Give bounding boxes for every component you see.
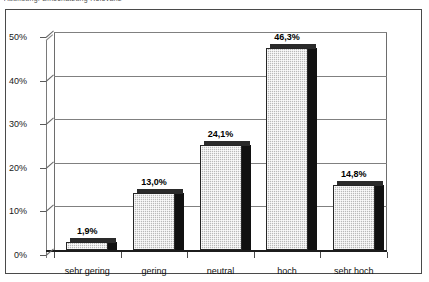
bar-side-face <box>375 185 384 250</box>
x-axis-tick <box>54 252 55 258</box>
bar-side-face <box>308 48 317 250</box>
gridline <box>54 32 387 33</box>
bar-value-label: 1,9% <box>54 227 120 236</box>
y-axis-tick-label: 50% <box>0 33 27 42</box>
bar-1[interactable] <box>133 188 175 250</box>
bar-value-label: 14,8% <box>321 170 387 179</box>
bar-front-face <box>133 193 175 250</box>
bar-front-face <box>200 145 242 250</box>
y-axis-tick-label: 20% <box>0 164 27 173</box>
bar-side-face <box>108 242 117 250</box>
y-axis-tick-label: 10% <box>0 207 27 216</box>
y-axis-tick-label: 40% <box>0 77 27 86</box>
bar-0[interactable] <box>66 237 108 250</box>
figure-caption-text: Abbildung: Einschätzung Relevanz <box>4 0 122 2</box>
bar-value-label: 24,1% <box>188 130 254 139</box>
bar-2[interactable] <box>200 140 242 250</box>
bar-4[interactable] <box>333 180 375 250</box>
figure-caption-remnant: Abbildung: Einschätzung Relevanz <box>4 0 214 4</box>
bar-front-face <box>266 48 308 250</box>
x-axis-category-label: sehr hoch <box>309 266 399 276</box>
x-axis-tick <box>187 252 188 258</box>
x-axis-tick <box>320 252 321 258</box>
gridline <box>54 76 387 77</box>
x-axis-baseline <box>46 250 387 252</box>
x-axis-tick <box>254 252 255 258</box>
bar-value-label: 46,3% <box>254 33 320 42</box>
chart-frame: 1,9%13,0%24,1%46,3%14,8% 0%10%20%30%40%5… <box>5 9 422 274</box>
bar-front-face <box>66 242 108 250</box>
bar-front-face <box>333 185 375 250</box>
y-axis-tick-label: 0% <box>0 251 27 260</box>
bar-side-face <box>242 145 251 250</box>
bar-value-label: 13,0% <box>121 178 187 187</box>
plot-area: 1,9%13,0%24,1%46,3%14,8% <box>54 32 387 250</box>
plot-depth-line <box>46 40 47 258</box>
bar-3[interactable] <box>266 43 308 250</box>
y-axis-tick-label: 30% <box>0 120 27 129</box>
gridline <box>54 119 387 120</box>
x-axis-tick <box>387 252 388 258</box>
bar-side-face <box>175 193 184 250</box>
x-axis-tick <box>121 252 122 258</box>
